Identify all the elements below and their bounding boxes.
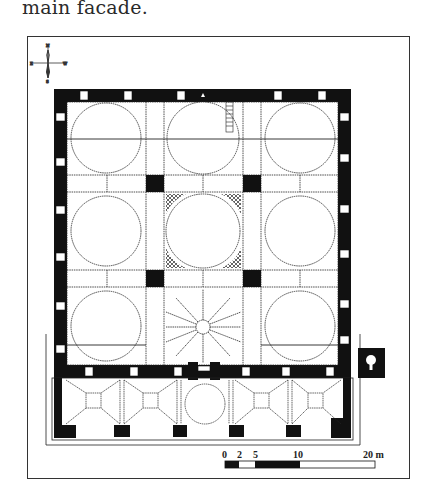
- scale-tick-10: 10: [293, 449, 303, 460]
- scale-tick-2: 2: [237, 449, 242, 460]
- svg-text:N: N: [46, 43, 50, 48]
- svg-text:E: E: [30, 61, 33, 66]
- minaret: [358, 348, 385, 378]
- compass-rose-icon: N E W S: [30, 43, 68, 84]
- mihrab-vault: [166, 289, 241, 363]
- scale-tick-5: 5: [253, 449, 258, 460]
- domes: [71, 102, 335, 361]
- svg-text:W: W: [63, 61, 68, 66]
- floor-plan: N E W S: [0, 0, 429, 493]
- svg-text:S: S: [46, 79, 49, 84]
- scale-tick-20m: 20 m: [363, 449, 385, 460]
- scale-tick-0: 0: [222, 449, 227, 460]
- scale-bar: 0 2 5 10 20 m: [222, 449, 385, 468]
